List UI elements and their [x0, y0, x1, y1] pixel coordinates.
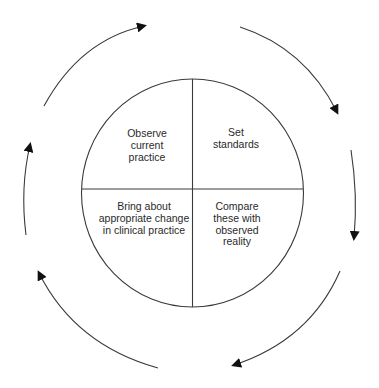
quadrant-compare-with-reality: Compare these with observed reality [213, 201, 260, 248]
quadrant-text-line: current [127, 140, 167, 152]
quadrant-text-line: appropriate change [99, 213, 190, 225]
quadrant-text-line: reality [213, 236, 260, 248]
quadrant-text-line: in clinical practice [99, 225, 190, 237]
quadrant-bring-about-change: Bring about appropriate change in clinic… [99, 201, 190, 236]
arrow-top-left-icon [44, 26, 144, 106]
quadrant-text-line: practice [127, 152, 167, 164]
arrow-bottom-right-icon [234, 271, 340, 365]
quadrant-text-line: these with [213, 213, 260, 225]
arrow-bottom-left-icon [39, 273, 158, 368]
audit-cycle-diagram [0, 0, 379, 388]
quadrant-set-standards: Set standards [213, 127, 259, 151]
quadrant-observe-current-practice: Observe current practice [127, 128, 167, 163]
arrow-right-icon [351, 150, 355, 238]
arrow-left-icon [24, 145, 30, 235]
quadrant-text-line: standards [213, 139, 259, 151]
arrow-top-right-icon [240, 27, 337, 112]
